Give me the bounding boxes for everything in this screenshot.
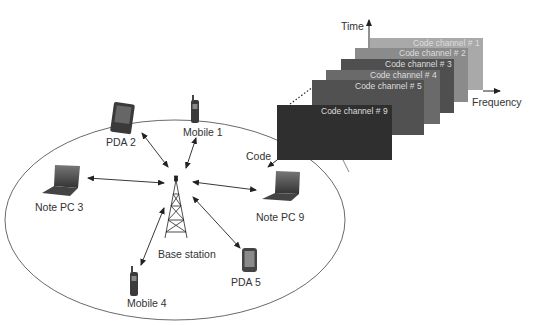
mobile-4-label: Mobile 4 bbox=[127, 297, 167, 309]
note-pc-3-label: Note PC 3 bbox=[35, 201, 83, 213]
mobile-1-icon bbox=[191, 95, 199, 123]
frequency-axis-label: Frequency bbox=[472, 96, 522, 108]
code-channel-1-label: Code channel # 1 bbox=[413, 38, 480, 48]
note-pc-9-icon bbox=[262, 171, 300, 201]
note-pc-3-icon bbox=[42, 165, 80, 196]
code-axis-label: Code bbox=[246, 150, 271, 162]
note-pc-9-label: Note PC 9 bbox=[256, 211, 304, 223]
pda-5-label: PDA 5 bbox=[231, 276, 261, 288]
pda-2-icon bbox=[110, 102, 135, 135]
code-channel-5-label: Code channel # 5 bbox=[355, 81, 422, 91]
pda-5-icon bbox=[242, 248, 257, 272]
time-axis-label: Time bbox=[341, 20, 364, 32]
mobile-1-label: Mobile 1 bbox=[183, 126, 223, 138]
code-channel-9-label: Code channel # 9 bbox=[321, 106, 388, 116]
base-station-tower-icon bbox=[165, 176, 187, 238]
code-channel-2-label: Code channel # 2 bbox=[399, 48, 466, 58]
code-channel-3-label: Code channel # 3 bbox=[385, 59, 452, 69]
dotted-connector bbox=[290, 87, 313, 104]
mobile-4-icon bbox=[130, 266, 138, 296]
base-station-label: Base station bbox=[158, 248, 216, 260]
pda-2-label: PDA 2 bbox=[106, 136, 136, 148]
code-channel-4-label: Code channel # 4 bbox=[370, 70, 437, 80]
